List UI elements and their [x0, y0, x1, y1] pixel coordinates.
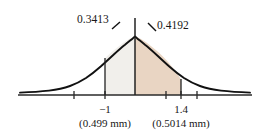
tick-unit-label-pos1p4: (0.5014 mm) — [142, 118, 220, 129]
tick-unit-label-neg1: (0.499 mm) — [66, 118, 144, 129]
right-shaded-region — [135, 37, 181, 96]
left-shaded-region — [105, 37, 135, 96]
bell-curve-plot — [0, 0, 274, 136]
normal-distribution-figure: 0.3413 0.4192 −1 (0.499 mm) 1.4 (0.5014 … — [0, 0, 274, 136]
tick-label-pos1p4: 1.4 — [159, 104, 203, 115]
left-area-value-label: 0.3413 — [77, 14, 109, 26]
right-area-leader — [148, 23, 156, 31]
tick-label-neg1: −1 — [83, 104, 127, 115]
right-area-value-label: 0.4192 — [157, 20, 189, 32]
left-area-leader — [112, 22, 120, 29]
